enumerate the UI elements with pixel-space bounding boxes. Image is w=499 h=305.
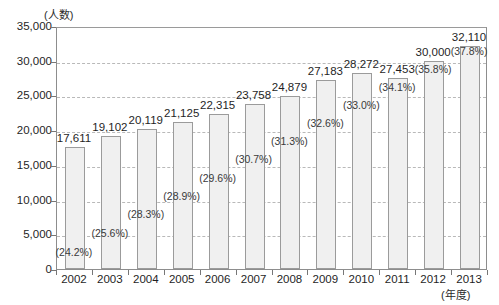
bar-percent-label: (32.6%): [298, 117, 352, 129]
bar-value-label: 24,879: [262, 81, 316, 93]
y-tick-label: 25,000: [0, 89, 52, 101]
bar-percent-label: (37.8%): [442, 45, 496, 57]
bar-percent-label: (28.3%): [119, 208, 173, 220]
bar-percent-label: (25.6%): [83, 227, 137, 239]
y-tick-label: 35,000: [0, 20, 52, 32]
x-tick-mark: [128, 270, 129, 275]
y-tick-label: 30,000: [0, 55, 52, 67]
bar-percent-label: (28.9%): [155, 190, 209, 202]
x-tick-mark: [487, 270, 488, 275]
bar: [209, 114, 229, 269]
bar: [245, 104, 265, 269]
x-tick-mark: [236, 270, 237, 275]
bar: [424, 61, 444, 269]
gridline: [57, 167, 486, 168]
x-tick-mark: [92, 270, 93, 275]
bar-percent-label: (33.0%): [334, 99, 388, 111]
y-tick-label: 15,000: [0, 159, 52, 171]
bar-percent-label: (31.3%): [262, 135, 316, 147]
y-tick-label: 5,000: [0, 228, 52, 240]
bar-value-label: 17,611: [47, 132, 101, 144]
x-tick-mark: [56, 270, 57, 275]
x-tick-mark: [272, 270, 273, 275]
y-tick-label: 0: [0, 263, 52, 275]
x-tick-mark: [307, 270, 308, 275]
x-axis-unit-label: (年度): [441, 286, 470, 302]
bar: [388, 78, 408, 269]
x-tick-mark: [343, 270, 344, 275]
bar-percent-label: (34.1%): [370, 81, 424, 93]
bar: [460, 46, 480, 269]
gridline: [57, 202, 486, 203]
x-tick-label: 2013: [447, 273, 491, 285]
bar-percent-label: (29.6%): [191, 172, 245, 184]
x-tick-mark: [451, 270, 452, 275]
bar-percent-label: (30.7%): [227, 153, 281, 165]
x-tick-mark: [200, 270, 201, 275]
x-tick-mark: [379, 270, 380, 275]
y-tick-label: 10,000: [0, 194, 52, 206]
x-tick-mark: [164, 270, 165, 275]
bar-chart: (人数) (年度) 35,00030,00025,00020,00015,000…: [0, 0, 499, 305]
y-tick-label: 20,000: [0, 124, 52, 136]
bar: [101, 136, 121, 269]
bar-percent-label: (35.8%): [406, 63, 460, 75]
bar-percent-label: (24.2%): [47, 246, 101, 258]
bar-value-label: 32,110: [442, 31, 496, 43]
x-tick-mark: [415, 270, 416, 275]
